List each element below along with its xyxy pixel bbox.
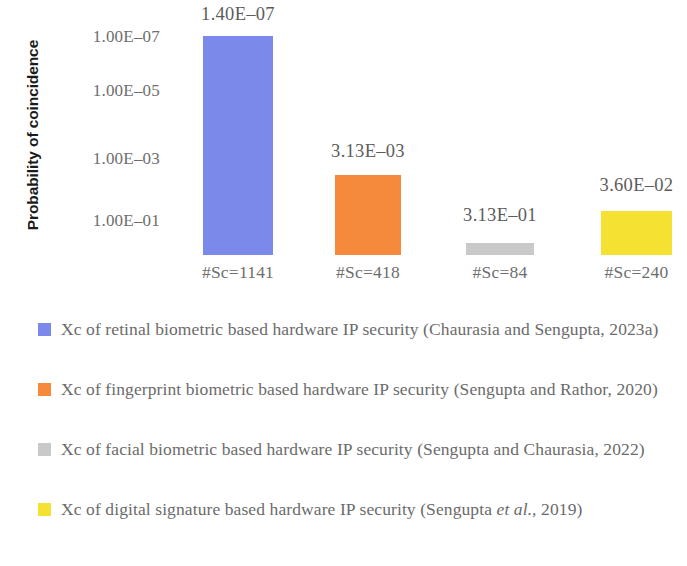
plot-area: Probability of coincidence 1.00E–071.00E… <box>0 0 687 300</box>
bar-retinal-rect <box>203 36 273 255</box>
bar-retinal: 1.40E–07#Sc=1141 <box>203 0 273 300</box>
legend-swatch-icon <box>38 503 51 516</box>
legend-entry-label: Xc of retinal biometric based hardware I… <box>61 316 683 343</box>
chart-legend: Xc of retinal biometric based hardware I… <box>0 305 687 566</box>
bar-fingerprint-value-label: 3.13E–03 <box>331 141 405 162</box>
legend-label-italic-part: et al., <box>497 499 537 519</box>
bar-digital-signature-value-label: 3.60E–02 <box>600 175 674 196</box>
bar-retinal-value-label: 1.40E–07 <box>201 4 275 25</box>
legend-label-part: Xc of retinal biometric based hardware I… <box>61 319 658 339</box>
legend-swatch-icon <box>38 383 51 396</box>
bar-facial: 3.13E–01#Sc=84 <box>466 0 534 300</box>
bar-digital-signature-category-label: #Sc=240 <box>605 262 669 283</box>
bar-facial-value-label: 3.13E–01 <box>463 205 537 226</box>
bar-facial-rect <box>466 243 534 255</box>
legend-entry[interactable]: Xc of fingerprint biometric based hardwa… <box>38 376 683 403</box>
legend-label-part: Xc of fingerprint biometric based hardwa… <box>61 379 658 399</box>
bar-retinal-category-label: #Sc=1141 <box>202 262 274 283</box>
legend-swatch-icon <box>38 323 51 336</box>
legend-label-part: Xc of facial biometric based hardware IP… <box>61 439 645 459</box>
legend-entry-label: Xc of digital signature based hardware I… <box>61 496 683 523</box>
legend-entry[interactable]: Xc of digital signature based hardware I… <box>38 496 683 523</box>
bar-digital-signature-rect <box>601 211 672 255</box>
y-axis-tick-label: 1.00E–05 <box>50 81 160 101</box>
y-axis-tick-labels: 1.00E–071.00E–051.00E–031.00E–01 <box>50 0 160 300</box>
bar-fingerprint-rect <box>335 175 401 255</box>
bar-fingerprint: 3.13E–03#Sc=418 <box>335 0 401 300</box>
legend-label-tail-part: 2019) <box>537 499 583 519</box>
bar-digital-signature: 3.60E–02#Sc=240 <box>601 0 672 300</box>
bar-fingerprint-category-label: #Sc=418 <box>336 262 400 283</box>
y-axis-title: Probability of coincidence <box>24 10 42 260</box>
y-axis-tick-label: 1.00E–03 <box>50 149 160 169</box>
legend-entry-label: Xc of facial biometric based hardware IP… <box>61 436 683 463</box>
legend-entry-label: Xc of fingerprint biometric based hardwa… <box>61 376 683 403</box>
legend-entry[interactable]: Xc of retinal biometric based hardware I… <box>38 316 683 343</box>
legend-label-part: Xc of digital signature based hardware I… <box>61 499 497 519</box>
y-axis-tick-label: 1.00E–01 <box>50 211 160 231</box>
legend-swatch-icon <box>38 443 51 456</box>
bar-facial-category-label: #Sc=84 <box>473 262 528 283</box>
y-axis-tick-label: 1.00E–07 <box>50 27 160 47</box>
bar-chart-figure: Probability of coincidence 1.00E–071.00E… <box>0 0 687 566</box>
legend-entry[interactable]: Xc of facial biometric based hardware IP… <box>38 436 683 463</box>
